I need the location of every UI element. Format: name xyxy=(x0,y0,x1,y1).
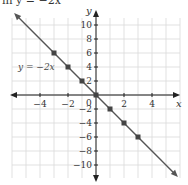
y-axis-up-arrow-icon xyxy=(93,10,99,17)
y-tick-label: 2 xyxy=(86,76,92,86)
y-tick-label: −8 xyxy=(79,146,93,156)
y-tick-label: −10 xyxy=(73,160,92,170)
y-tick-label: −4 xyxy=(79,118,93,128)
x-axis-left-arrow-icon xyxy=(10,92,17,98)
data-point xyxy=(136,135,141,140)
x-tick-label: −4 xyxy=(33,99,47,109)
y-tick-label: 10 xyxy=(81,20,93,30)
y-axis-label: y xyxy=(85,5,92,16)
y-tick-label: 4 xyxy=(86,62,92,72)
y-axis-down-arrow-icon xyxy=(93,175,99,182)
y-tick-label: 6 xyxy=(86,48,92,58)
x-axis-label: x xyxy=(176,98,182,109)
origin-label: 0 xyxy=(86,98,92,108)
data-point xyxy=(80,79,85,84)
y-tick-label: −6 xyxy=(79,132,93,142)
data-point xyxy=(94,93,99,98)
x-tick-label: 4 xyxy=(149,99,155,109)
equation-label: y = −2x xyxy=(17,62,55,72)
x-tick-label: 2 xyxy=(121,99,127,109)
data-point xyxy=(108,107,113,112)
x-tick-label: −2 xyxy=(61,99,74,109)
y-tick-label: 8 xyxy=(86,34,92,44)
data-point xyxy=(66,65,71,70)
data-point xyxy=(122,121,127,126)
data-point xyxy=(52,51,57,56)
coordinate-plane: −4−224108642−2−4−6−8−10 y = −2x x y 0 xyxy=(0,0,188,185)
